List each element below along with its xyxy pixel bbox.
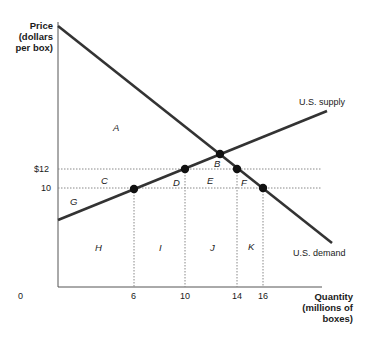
x-tick-6: 6 [131,291,136,302]
area-label-k: K [248,241,254,252]
x-axis-title-line-2: (millions of [302,302,353,313]
x-tick-16: 16 [258,291,268,302]
area-label-f: F [241,177,247,188]
area-label-h: H [95,242,102,253]
x-tick-14: 14 [232,291,242,302]
y-axis-title: Price (dollars per box) [16,20,53,53]
point-demand-q16 [259,184,267,192]
area-label-e: E [207,175,213,186]
area-label-c: C [101,175,108,186]
y-axis-title-line-1: Price [16,20,53,31]
area-label-i: I [159,242,162,253]
origin-label: 0 [18,291,23,302]
area-label-g: G [70,196,77,207]
y-axis-title-line-3: per box) [16,42,53,53]
x-axis-title: Quantity (millions of boxes) [302,291,353,324]
y-axis-title-line-2: (dollars [16,31,53,42]
supply-curve [58,111,327,220]
x-tick-10: 10 [180,291,190,302]
point-supply-q10 [181,165,189,173]
area-label-b: B [214,158,220,169]
area-label-j: J [210,242,215,253]
x-axis-title-line-3: boxes) [302,313,353,324]
x-axis-title-line-1: Quantity [302,291,353,302]
point-equilibrium [216,150,224,158]
point-supply-q6 [130,185,138,193]
area-label-a: A [113,122,119,133]
y-tick-10: 10 [41,183,51,194]
demand-label: U.S. demand [293,248,346,259]
point-demand-q14 [233,165,241,173]
y-tick-12: $12 [34,164,49,175]
demand-curve [58,26,332,243]
area-label-d: D [173,177,180,188]
supply-label: U.S. supply [299,97,345,108]
supply-demand-diagram [0,0,365,339]
